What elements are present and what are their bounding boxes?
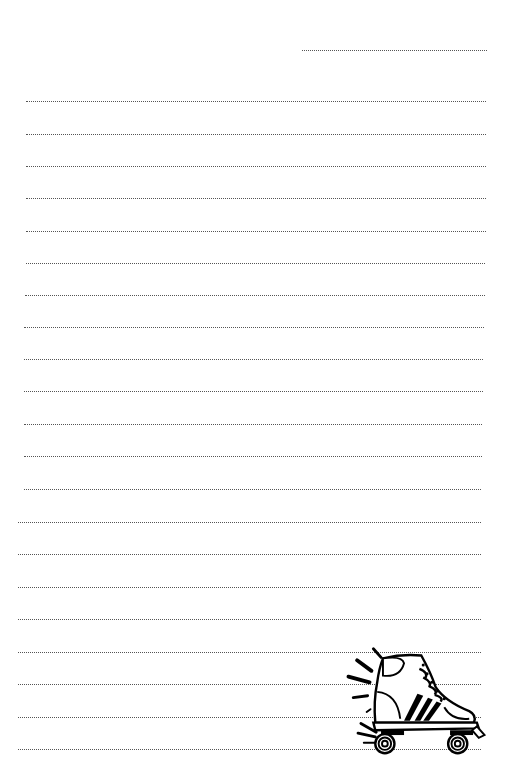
ruled-line — [26, 101, 486, 102]
ruled-line — [26, 231, 486, 232]
date-line — [302, 50, 487, 51]
ruled-line — [26, 198, 486, 199]
ruled-line — [25, 295, 485, 296]
roller-skate-icon — [344, 644, 489, 759]
ruled-line — [24, 489, 481, 490]
ruled-line — [26, 134, 486, 135]
ruled-line — [26, 263, 485, 264]
ruled-line — [24, 359, 483, 360]
ruled-line — [18, 522, 481, 523]
ruled-line — [18, 554, 481, 555]
ruled-line — [24, 456, 482, 457]
ruled-line — [18, 619, 481, 620]
ruled-line — [24, 327, 484, 328]
ruled-line — [24, 424, 482, 425]
ruled-line — [24, 391, 483, 392]
ruled-line — [18, 587, 481, 588]
ruled-line — [26, 166, 486, 167]
